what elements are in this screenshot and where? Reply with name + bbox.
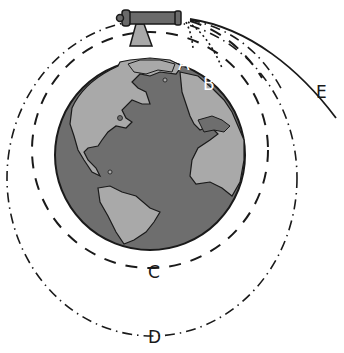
label-b: B xyxy=(203,76,215,93)
cannon-mount xyxy=(130,24,152,46)
label-c: C xyxy=(148,264,160,281)
label-e: E xyxy=(316,84,327,101)
label-a: A xyxy=(178,56,190,73)
greenland-landmass xyxy=(128,60,175,74)
cannonball-orbit-diagram xyxy=(0,0,344,353)
label-d: D xyxy=(148,329,161,346)
cannon-barrel xyxy=(126,12,178,24)
cannon xyxy=(117,10,182,46)
earth-globe xyxy=(55,58,245,250)
